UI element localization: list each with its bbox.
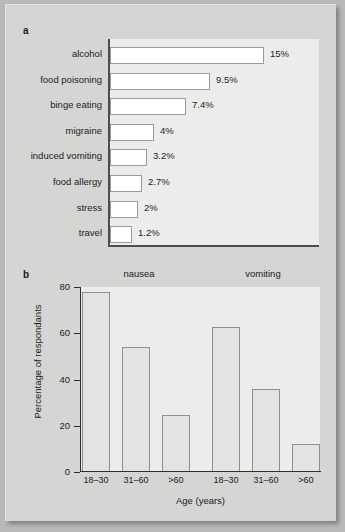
panel-b-x-tick-label: 31–60 xyxy=(244,475,288,485)
panel-b-y-axis-title: Percentage of respondants xyxy=(32,282,43,442)
panel-b-x-tick-label: >60 xyxy=(154,475,198,485)
panel-b-y-tick xyxy=(74,333,80,334)
panel-b-bar xyxy=(252,389,280,472)
panel-a-category-label: food poisoning xyxy=(0,74,102,85)
panel-a-category-label: induced vomiting xyxy=(0,150,102,161)
panel-a-value-label: 2.7% xyxy=(148,176,170,187)
panel-a-bar xyxy=(110,226,132,243)
panel-a-category-label: stress xyxy=(0,202,102,213)
panel-b-bars xyxy=(80,287,321,472)
panel-a-value-label: 2% xyxy=(144,202,158,213)
panel-a-bar xyxy=(110,149,147,166)
figure-panel-container: a alcohol15%food poisoning9.5%binge eati… xyxy=(5,4,336,521)
panel-a-bar xyxy=(110,124,154,141)
panel-b-letter: b xyxy=(23,269,29,280)
panel-a-bar xyxy=(110,201,138,218)
panel-a-bar-row: migraine4% xyxy=(6,120,336,146)
panel-a-bar xyxy=(110,73,210,90)
panel-b-y-tick xyxy=(74,380,80,381)
panel-b-y-tick-label: 60 xyxy=(46,327,70,338)
panel-b-x-tick-label: 31–60 xyxy=(114,475,158,485)
panel-b-y-tick-label: 20 xyxy=(46,420,70,431)
panel-a: a alcohol15%food poisoning9.5%binge eati… xyxy=(6,5,336,260)
panel-b-y-axis-line xyxy=(80,287,81,472)
panel-b-y-tick xyxy=(74,287,80,288)
panel-a-category-label: travel xyxy=(0,227,102,238)
panel-a-bar-row: travel1.2% xyxy=(6,222,336,248)
panel-b-y-tick-label: 80 xyxy=(46,281,70,292)
panel-b-bar xyxy=(212,327,240,472)
panel-a-category-label: migraine xyxy=(0,125,102,136)
panel-a-bar-row: stress2% xyxy=(6,197,336,223)
panel-b-x-axis-line xyxy=(80,471,321,472)
panel-b-y-tick xyxy=(74,426,80,427)
panel-a-value-label: 3.2% xyxy=(153,150,175,161)
panel-a-value-label: 9.5% xyxy=(216,74,238,85)
panel-b-x-axis-title: Age (years) xyxy=(80,495,321,506)
panel-a-value-label: 15% xyxy=(270,48,289,59)
panel-b: b nausea vomiting 020406080 18–3031–60>6… xyxy=(6,260,336,521)
panel-b-bar xyxy=(162,415,190,472)
panel-b-bar xyxy=(82,292,110,472)
panel-a-value-label: 4% xyxy=(160,125,174,136)
panel-a-bar-row: induced vomiting3.2% xyxy=(6,145,336,171)
panel-a-bar xyxy=(110,175,142,192)
panel-b-bar xyxy=(122,347,150,472)
panel-a-bar-row: food poisoning9.5% xyxy=(6,69,336,95)
panel-b-x-tick-label: 18–30 xyxy=(74,475,118,485)
panel-b-y-tick-label: 40 xyxy=(46,374,70,385)
panel-a-category-label: alcohol xyxy=(0,48,102,59)
panel-b-y-tick xyxy=(74,472,80,473)
panel-b-x-tick-label: 18–30 xyxy=(204,475,248,485)
panel-a-category-label: food allergy xyxy=(0,176,102,187)
panel-a-bar-row: alcohol15% xyxy=(6,43,336,69)
panel-a-bar xyxy=(110,47,264,64)
panel-a-bar-row: food allergy2.7% xyxy=(6,171,336,197)
panel-a-value-label: 1.2% xyxy=(138,227,160,238)
panel-a-letter: a xyxy=(23,25,29,36)
panel-a-bar-row: binge eating7.4% xyxy=(6,94,336,120)
panel-b-x-tick-label: >60 xyxy=(284,475,328,485)
panel-b-group-title-vomiting: vomiting xyxy=(218,268,308,279)
panel-b-bar xyxy=(292,444,320,472)
panel-a-bar xyxy=(110,98,186,115)
panel-a-category-label: binge eating xyxy=(0,99,102,110)
panel-b-y-tick-label: 0 xyxy=(46,466,70,477)
panel-a-value-label: 7.4% xyxy=(192,99,214,110)
panel-b-group-title-nausea: nausea xyxy=(94,268,184,279)
